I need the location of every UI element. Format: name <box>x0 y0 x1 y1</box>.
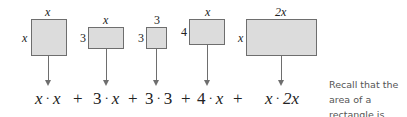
rectangle-x-by-x <box>31 19 67 56</box>
rect4-side-label: 4 <box>181 26 187 38</box>
arrowhead-1 <box>45 80 51 86</box>
rect1-top-label: x <box>45 6 50 18</box>
plus-1: + <box>73 90 83 107</box>
term-2-dot: · <box>105 91 109 104</box>
arrowhead-3 <box>153 80 159 86</box>
term-3-dot: · <box>157 91 161 104</box>
rect5-side-label: x <box>238 32 243 44</box>
term-5: x·2x <box>265 90 299 107</box>
plus-2: + <box>128 90 138 107</box>
arrow-2 <box>106 49 107 81</box>
arrow-5 <box>281 56 282 81</box>
area-model-diagram: x x x 3 3 3 x 4 2x x x·x + 3·x + 3·3 + 4… <box>0 0 407 117</box>
term-1: x·x <box>35 90 60 107</box>
term-3: 3·3 <box>145 90 172 107</box>
rect4-top-label: x <box>205 6 210 18</box>
rectangle-x-by-2x <box>246 19 317 56</box>
term-5-right: 2x <box>283 89 299 108</box>
rect3-top-label: 3 <box>154 14 160 26</box>
term-1-dot: · <box>46 91 50 104</box>
term-1-left: x <box>35 89 43 108</box>
arrowhead-4 <box>204 80 210 86</box>
term-2: 3·x <box>93 90 119 107</box>
rectangle-3-by-3 <box>146 27 167 49</box>
term-2-left: 3 <box>93 89 102 108</box>
rectangle-4-by-x <box>189 19 225 45</box>
arrow-4 <box>207 45 208 81</box>
term-5-dot: · <box>276 91 280 104</box>
arrow-3 <box>156 49 157 81</box>
term-4-dot: · <box>209 91 213 104</box>
term-2-right: x <box>112 89 120 108</box>
rect2-top-label: x <box>103 14 108 26</box>
side-note: Recall that the area of a rectangle is l… <box>329 77 407 117</box>
arrowhead-5 <box>278 80 284 86</box>
term-3-right: 3 <box>164 89 173 108</box>
term-3-left: 3 <box>145 89 154 108</box>
arrowhead-2 <box>103 80 109 86</box>
plus-3: + <box>181 90 191 107</box>
term-4: 4·x <box>197 90 223 107</box>
rect3-side-label: 3 <box>138 32 144 44</box>
rect2-side-label: 3 <box>80 32 86 44</box>
rectangle-3-by-x <box>88 27 124 49</box>
arrow-1 <box>48 56 49 81</box>
term-5-left: x <box>265 89 273 108</box>
rect1-side-label: x <box>22 32 27 44</box>
term-4-left: 4 <box>197 89 206 108</box>
term-1-right: x <box>53 89 61 108</box>
plus-4: + <box>233 90 243 107</box>
term-4-right: x <box>216 89 224 108</box>
rect5-top-label: 2x <box>275 6 286 18</box>
